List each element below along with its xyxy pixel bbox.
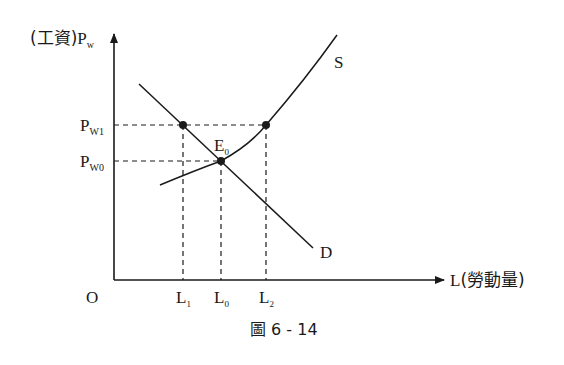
demand-curve (139, 84, 313, 248)
supply-curve-label: S (334, 53, 343, 72)
l0-label: L0 (214, 288, 229, 309)
x-axis-label: L(勞動量) (450, 270, 525, 290)
supply-curve (160, 35, 337, 185)
point-l1-pw1 (179, 121, 187, 129)
demand-curve-label: D (320, 243, 332, 262)
equilibrium-label: E0 (214, 136, 229, 157)
point-equilibrium-e0 (217, 157, 225, 165)
origin-label: O (86, 288, 98, 307)
labor-market-diagram: (工資)Pw L(勞動量) O PW1 PW0 L1 L0 L2 E0 S D … (0, 0, 564, 365)
pw1-label: PW1 (80, 116, 104, 137)
point-l2-pw1 (262, 121, 270, 129)
y-axis-label: (工資)Pw (30, 28, 95, 50)
pw0-label: PW0 (80, 152, 104, 173)
figure-caption: 圖 6 - 14 (250, 320, 318, 339)
l2-label: L2 (259, 288, 274, 309)
guide-lines (114, 125, 266, 280)
l1-label: L1 (176, 288, 191, 309)
